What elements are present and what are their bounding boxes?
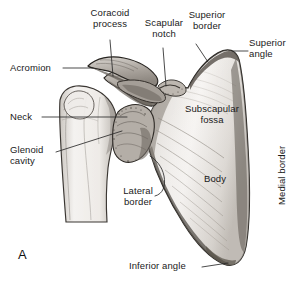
label-body: Body: [196, 174, 234, 185]
label-subscapular-fossa: Subscapular fossa: [174, 104, 250, 125]
label-inferior-angle: Inferior angle: [129, 261, 205, 272]
anatomical-figure-scapula: Coracoid process Scapular notch Superior…: [0, 0, 296, 290]
label-superior-border: Superior border: [176, 10, 238, 31]
scapula-body: [140, 40, 260, 280]
leader-superior-border: [196, 44, 208, 62]
label-acromion: Acromion: [10, 63, 66, 74]
label-neck: Neck: [10, 112, 50, 123]
label-glenoid-cavity: Glenoid cavity: [10, 145, 62, 166]
label-medial-border: Medial border: [277, 146, 288, 205]
scapular-spine-fragment: [117, 80, 165, 103]
humerus-bone: [60, 86, 118, 222]
leader-inferior-angle: [202, 263, 228, 267]
glenoid-cavity-and-neck: [113, 105, 155, 163]
label-superior-angle: Superior angle: [249, 38, 295, 59]
leader-scapular-notch: [163, 48, 166, 86]
panel-letter: A: [18, 247, 27, 262]
label-lateral-border: Lateral border: [112, 186, 164, 207]
